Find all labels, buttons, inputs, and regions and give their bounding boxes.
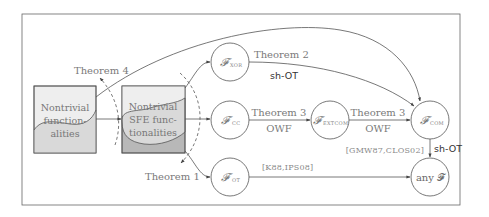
box2-line2: SFE func- [129, 114, 176, 125]
node-f-ot: 𝓕 OT [211, 158, 249, 196]
label-theorem2-assumption: sh-OT [270, 70, 298, 81]
svg-text:XOR: XOR [230, 62, 242, 68]
node-any-f: any 𝓕 [411, 158, 449, 196]
label-gmw-assumption: sh-OT [434, 143, 462, 154]
box1-line1: Nontrivial [41, 102, 90, 113]
label-theorem1: Theorem 1 [145, 171, 200, 182]
box2-line3: tionalities [129, 127, 177, 138]
box-nontrivial-functionalities: Nontrivial function- alities [34, 86, 96, 153]
label-theorem2: Theorem 2 [254, 49, 309, 60]
svg-text:EXTCOM: EXTCOM [323, 120, 348, 126]
svg-text:any 𝓕: any 𝓕 [416, 172, 446, 183]
node-f-cc: 𝓕 CC [211, 101, 249, 139]
svg-text:OT: OT [232, 177, 240, 183]
label-theorem3a: Theorem 3 [252, 107, 307, 118]
label-kilian-cite: [K88,IPS08] [262, 163, 313, 172]
label-theorem3b-assumption: OWF [365, 123, 390, 134]
box1-line3: alities [50, 128, 79, 139]
node-f-xor: 𝓕 XOR [211, 43, 249, 81]
box-nontrivial-sfe-functionalities: Nontrivial SFE func- tionalities [122, 86, 185, 153]
node-f-com: 𝓕 COM [411, 101, 449, 139]
box1-line2: function- [44, 115, 87, 126]
diagram-canvas: Nontrivial function- alities Nontrivial … [0, 0, 489, 217]
svg-text:CC: CC [232, 120, 240, 126]
svg-text:COM: COM [430, 120, 444, 126]
label-theorem4: Theorem 4 [74, 65, 129, 76]
label-theorem3b: Theorem 3 [351, 107, 406, 118]
label-gmw-cite: [GMW87,CLOS02] [346, 146, 424, 155]
node-f-extcom: 𝓕 EXTCOM [311, 101, 349, 139]
box2-line1: Nontrivial [129, 101, 178, 112]
label-theorem3a-assumption: OWF [266, 123, 291, 134]
